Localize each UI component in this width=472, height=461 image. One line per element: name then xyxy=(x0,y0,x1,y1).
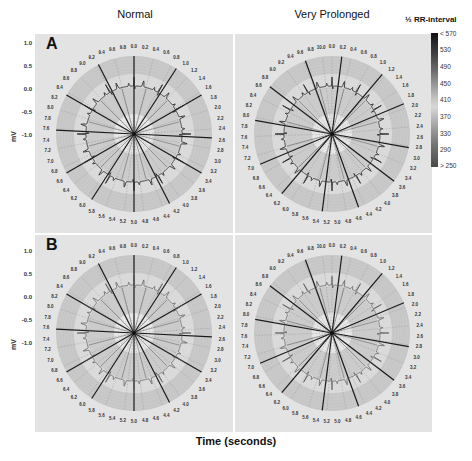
svg-text:9.2: 9.2 xyxy=(88,55,95,60)
svg-text:0.2: 0.2 xyxy=(340,45,347,50)
svg-text:2.8: 2.8 xyxy=(217,347,224,352)
svg-text:6.2: 6.2 xyxy=(274,400,281,405)
svg-text:6.2: 6.2 xyxy=(71,395,78,400)
svg-text:8.4: 8.4 xyxy=(250,93,257,98)
svg-text:9.4: 9.4 xyxy=(98,249,105,254)
panel-letter-a: A xyxy=(46,35,58,53)
svg-text:6.6: 6.6 xyxy=(259,185,266,190)
polar-plot-a-very-prolonged: 0.00.20.40.60.81.01.21.41.61.82.02.22.42… xyxy=(235,34,432,233)
svg-text:2.8: 2.8 xyxy=(416,344,423,349)
svg-text:4.8: 4.8 xyxy=(345,219,352,224)
svg-text:2.6: 2.6 xyxy=(219,337,226,342)
svg-text:2.4: 2.4 xyxy=(219,126,226,131)
svg-text:8.6: 8.6 xyxy=(63,275,70,280)
svg-text:2.2: 2.2 xyxy=(217,315,224,320)
svg-text:6.8: 6.8 xyxy=(51,169,58,174)
svg-text:1.0: 1.0 xyxy=(380,60,387,65)
svg-text:7.0: 7.0 xyxy=(47,159,54,164)
polar-plot-a-normal: 0.00.20.40.60.81.01.21.41.61.82.02.22.42… xyxy=(35,34,233,233)
svg-text:5.4: 5.4 xyxy=(313,418,320,423)
svg-text:9.0: 9.0 xyxy=(79,260,86,265)
svg-text:5.4: 5.4 xyxy=(109,217,116,222)
svg-text:6.6: 6.6 xyxy=(259,384,266,389)
svg-text:5.6: 5.6 xyxy=(302,415,309,420)
svg-text:0.4: 0.4 xyxy=(350,47,357,52)
svg-text:6.0: 6.0 xyxy=(283,207,290,212)
svg-text:0.4: 0.4 xyxy=(153,47,160,52)
svg-text:1.4: 1.4 xyxy=(396,274,403,279)
svg-text:4.8: 4.8 xyxy=(142,219,149,224)
svg-text:6.4: 6.4 xyxy=(63,188,70,193)
svg-text:5.8: 5.8 xyxy=(88,209,95,214)
y-axis-label: mV xyxy=(10,131,17,142)
y-tick: -0.5 xyxy=(22,317,32,323)
svg-text:0.6: 0.6 xyxy=(361,249,368,254)
svg-text:9.2: 9.2 xyxy=(278,60,285,65)
svg-text:7.6: 7.6 xyxy=(241,334,248,339)
panel-b-very-prolonged: 0.00.20.40.60.81.01.21.41.61.82.02.22.42… xyxy=(235,235,432,432)
svg-text:7.4: 7.4 xyxy=(43,337,50,342)
svg-text:0.8: 0.8 xyxy=(173,55,180,60)
svg-text:4.8: 4.8 xyxy=(142,418,149,423)
svg-text:1.2: 1.2 xyxy=(191,267,198,272)
svg-text:6.4: 6.4 xyxy=(266,392,273,397)
svg-text:0.0: 0.0 xyxy=(329,243,336,248)
svg-text:4.2: 4.2 xyxy=(173,408,180,413)
svg-text:9.8: 9.8 xyxy=(307,246,314,251)
svg-text:1.6: 1.6 xyxy=(205,85,212,90)
svg-text:7.0: 7.0 xyxy=(248,365,255,370)
svg-text:3.8: 3.8 xyxy=(191,196,198,201)
colorbar-title: ½ RR-interval xyxy=(405,15,457,24)
svg-text:10.0: 10.0 xyxy=(317,45,326,50)
svg-text:8.8: 8.8 xyxy=(262,75,269,80)
svg-text:7.8: 7.8 xyxy=(44,315,51,320)
y-axis-a: 1.0 0.5 0.0 -0.5 -1.0 mV xyxy=(10,40,32,150)
svg-text:10.0: 10.0 xyxy=(317,244,326,249)
svg-text:0.2: 0.2 xyxy=(142,45,149,50)
svg-text:4.0: 4.0 xyxy=(183,203,190,208)
svg-text:1.0: 1.0 xyxy=(380,259,387,264)
svg-text:8.0: 8.0 xyxy=(243,113,250,118)
svg-text:6.6: 6.6 xyxy=(57,378,64,383)
svg-text:3.8: 3.8 xyxy=(392,392,399,397)
panel-a-very-prolonged: 0.00.20.40.60.81.01.21.41.61.82.02.22.42… xyxy=(235,34,432,233)
svg-text:0.8: 0.8 xyxy=(370,253,377,258)
svg-text:1.6: 1.6 xyxy=(402,83,409,88)
colorbar-label: 410 xyxy=(440,96,451,103)
y-tick: -1.0 xyxy=(22,340,32,346)
colorbar xyxy=(431,33,438,167)
svg-text:3.0: 3.0 xyxy=(215,358,222,363)
svg-text:9.8: 9.8 xyxy=(120,45,127,50)
svg-text:2.4: 2.4 xyxy=(416,124,423,129)
svg-text:3.0: 3.0 xyxy=(414,355,421,360)
svg-text:7.8: 7.8 xyxy=(241,124,248,129)
svg-text:1.4: 1.4 xyxy=(199,275,206,280)
svg-text:6.0: 6.0 xyxy=(79,402,86,407)
svg-text:5.2: 5.2 xyxy=(323,220,330,225)
svg-text:2.6: 2.6 xyxy=(417,135,424,140)
svg-text:3.6: 3.6 xyxy=(199,387,206,392)
svg-text:5.2: 5.2 xyxy=(120,219,127,224)
y-axis-label: mV xyxy=(10,339,17,350)
svg-text:7.0: 7.0 xyxy=(248,166,255,171)
svg-text:9.0: 9.0 xyxy=(79,61,86,66)
svg-text:5.2: 5.2 xyxy=(323,419,330,424)
svg-text:4.0: 4.0 xyxy=(384,201,391,206)
svg-text:3.2: 3.2 xyxy=(210,368,217,373)
svg-text:3.0: 3.0 xyxy=(414,156,421,161)
svg-text:0.8: 0.8 xyxy=(173,254,180,259)
svg-text:2.2: 2.2 xyxy=(217,116,224,121)
y-tick: 0.0 xyxy=(24,294,32,300)
svg-text:8.6: 8.6 xyxy=(256,83,263,88)
svg-text:3.6: 3.6 xyxy=(199,188,206,193)
svg-text:1.2: 1.2 xyxy=(191,68,198,73)
panel-b-normal: 0.00.20.40.60.81.01.21.41.61.82.02.22.42… xyxy=(35,235,233,432)
svg-text:8.2: 8.2 xyxy=(51,294,58,299)
svg-text:1.2: 1.2 xyxy=(388,266,395,271)
svg-text:7.2: 7.2 xyxy=(244,355,251,360)
y-tick: 0.0 xyxy=(24,86,32,92)
svg-text:6.4: 6.4 xyxy=(63,387,70,392)
svg-text:1.0: 1.0 xyxy=(183,61,190,66)
svg-text:1.8: 1.8 xyxy=(210,294,217,299)
svg-text:8.8: 8.8 xyxy=(262,274,269,279)
